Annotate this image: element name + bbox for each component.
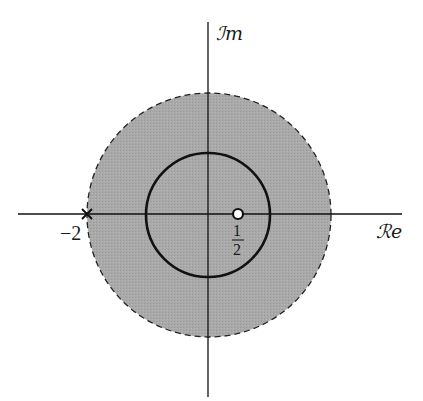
fraction-denominator: 2 (233, 241, 241, 258)
fraction-numerator: 1 (233, 222, 241, 239)
shaded-region-disk (87, 93, 331, 337)
complex-plane-diagram: ℐm ℛe −2 1 2 (0, 0, 423, 401)
imaginary-axis-label: ℐm (216, 22, 243, 44)
zero-marker-icon (233, 209, 243, 219)
pole-label: −2 (60, 222, 81, 244)
real-axis-label: ℛe (376, 220, 402, 242)
